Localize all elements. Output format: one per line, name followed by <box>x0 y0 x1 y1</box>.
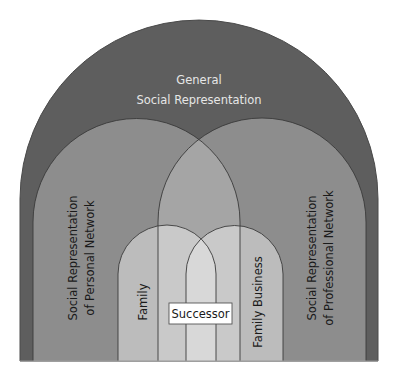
general-label-line1: General <box>176 73 221 87</box>
professional-network-label-line2: of Professional Network <box>322 190 336 326</box>
professional-network-label-line1: Social Representation <box>305 195 319 320</box>
personal-network-label-line1: Social Representation <box>66 195 80 320</box>
family-business-label: Family Business <box>251 256 265 347</box>
nested-arch-diagram: General Social Representation Social Rep… <box>0 0 398 379</box>
personal-network-label-line2: of Personal Network <box>83 200 97 316</box>
successor-label: Successor <box>171 307 229 321</box>
family-label: Family <box>136 283 150 320</box>
general-label-line2: Social Representation <box>136 93 261 107</box>
